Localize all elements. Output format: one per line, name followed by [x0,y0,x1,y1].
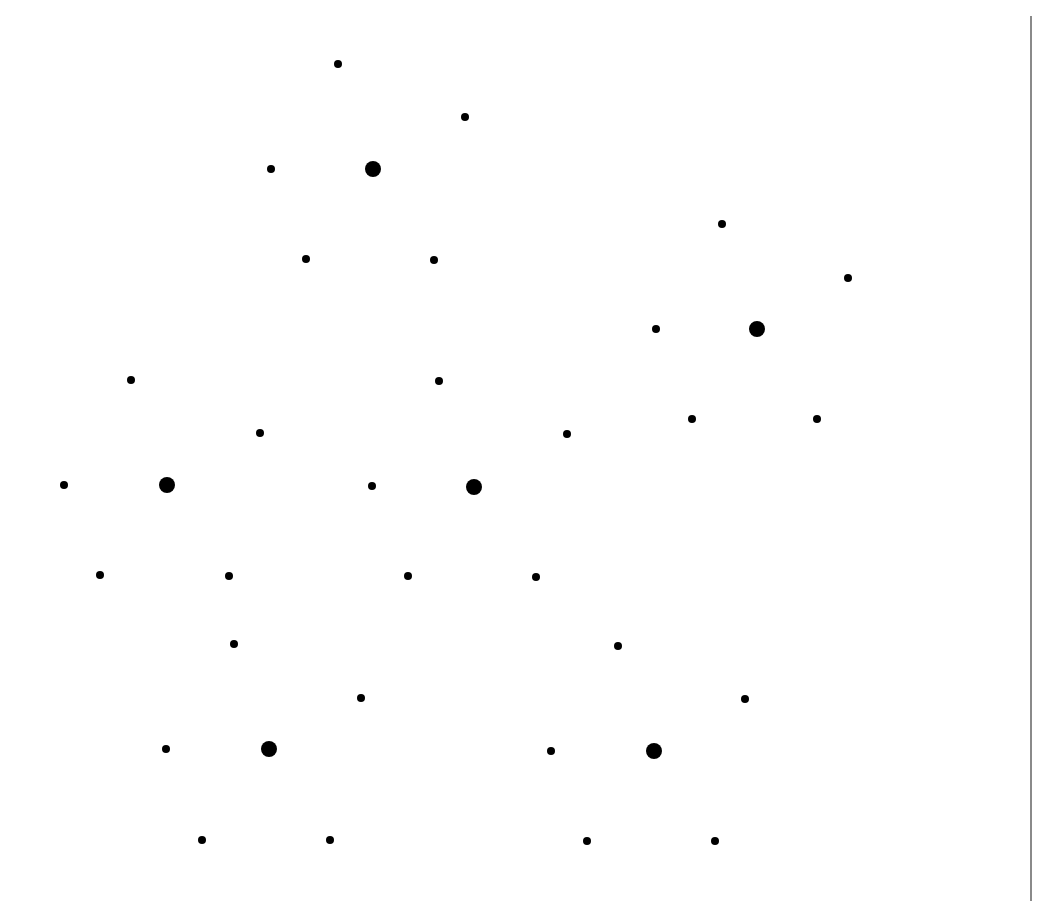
satellite-dot [711,837,719,845]
satellite-dot [844,274,852,282]
satellite-dot [430,256,438,264]
satellite-dot [230,640,238,648]
cluster-center-dot [646,743,662,759]
satellite-dot [96,571,104,579]
satellite-dot [225,572,233,580]
satellite-dot [435,377,443,385]
satellite-dot [583,837,591,845]
satellite-dot [688,415,696,423]
satellite-dot [614,642,622,650]
cluster-center-dot [159,477,175,493]
satellite-dot [162,745,170,753]
satellite-dot [357,694,365,702]
satellite-dot [741,695,749,703]
satellite-dot [547,747,555,755]
cluster-center-dot [365,161,381,177]
cluster-center-dot [261,741,277,757]
satellite-dot [813,415,821,423]
satellite-dot [718,220,726,228]
satellite-dot [563,430,571,438]
dot-diagram-canvas [0,0,1037,901]
satellite-dot [532,573,540,581]
cluster-center-dot [466,479,482,495]
satellite-dot [127,376,135,384]
satellite-dot [256,429,264,437]
satellite-dot [461,113,469,121]
cluster-center-dot [749,321,765,337]
satellite-dot [404,572,412,580]
satellite-dot [368,482,376,490]
satellite-dot [302,255,310,263]
satellite-dot [334,60,342,68]
satellite-dot [652,325,660,333]
satellite-dot [60,481,68,489]
satellite-dot [198,836,206,844]
right-vertical-rule [1030,16,1032,901]
satellite-dot [326,836,334,844]
satellite-dot [267,165,275,173]
